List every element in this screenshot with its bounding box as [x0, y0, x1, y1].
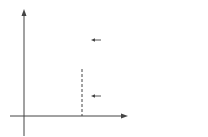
- y-axis-arrow-icon: [22, 9, 27, 16]
- f-pointer-arrow-icon: [91, 38, 95, 42]
- g-pointer-arrow-icon: [91, 94, 95, 98]
- x-axis-arrow-icon: [121, 114, 128, 119]
- function-graph: [0, 0, 208, 137]
